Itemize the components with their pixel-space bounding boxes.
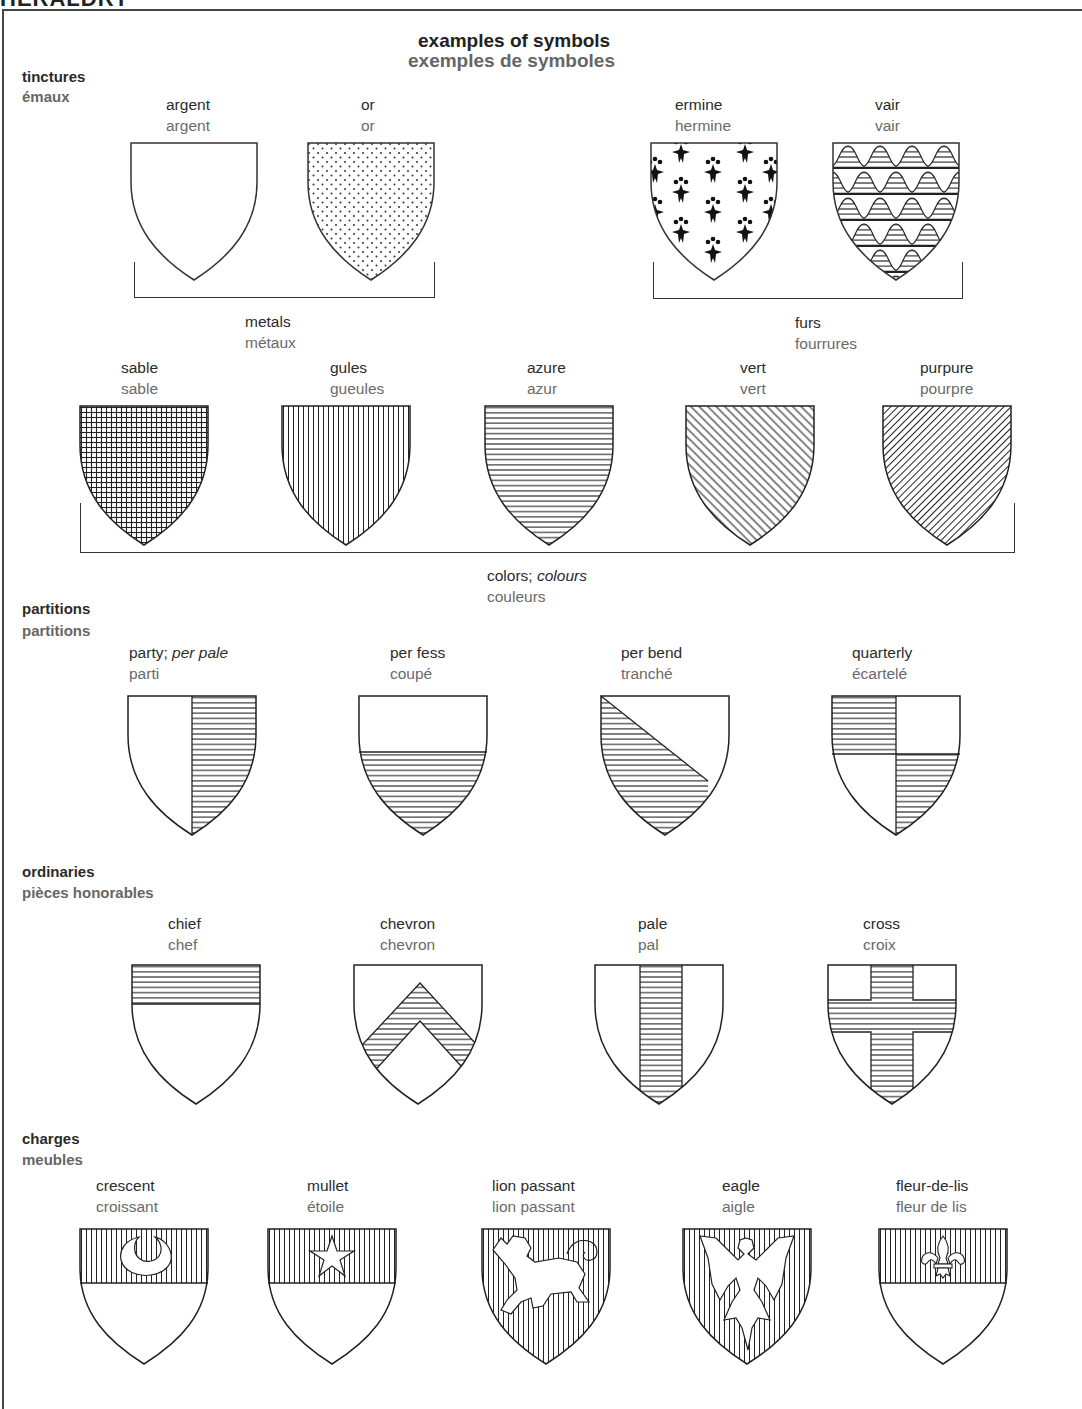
group-label-furs: furs fourrures [795, 312, 857, 354]
label-mullet: mullet étoile [307, 1175, 348, 1217]
label-pale: pale pal [638, 913, 667, 955]
bracket-metals [134, 262, 435, 298]
label-per-pale: party; per pale parti [129, 642, 228, 684]
shield-lion-passant [481, 1228, 613, 1366]
label-purpure: purpure pourpre [920, 357, 973, 399]
page-title-french: exemples de symboles [408, 50, 615, 71]
label-eagle: eagle aigle [722, 1175, 760, 1217]
shield-argent [130, 142, 260, 282]
shield-per-fess [358, 695, 490, 837]
shield-eagle [682, 1228, 814, 1366]
label-vair: vair vair [875, 94, 900, 136]
shield-crescent [79, 1228, 211, 1366]
section-title-ordinaries-fr: pièces honorables [22, 882, 154, 903]
bracket-furs [653, 262, 963, 299]
label-cross: cross croix [863, 913, 900, 955]
label-azure: azure azur [527, 357, 566, 399]
shield-fleur-de-lis [878, 1228, 1010, 1366]
shield-or-dotted [307, 142, 437, 282]
shield-chief [131, 964, 263, 1106]
section-title-ordinaries: ordinaries [22, 861, 95, 882]
label-fleur-de-lis: fleur-de-lis fleur de lis [896, 1175, 968, 1217]
label-argent: argent argent [166, 94, 210, 136]
section-title-tinctures-fr: émaux [22, 86, 70, 107]
shield-quarterly [831, 695, 963, 837]
label-sable: sable sable [121, 357, 158, 399]
shield-ermine [650, 142, 780, 282]
section-title-charges-fr: meubles [22, 1149, 83, 1170]
label-lion-passant: lion passant lion passant [492, 1175, 575, 1217]
shield-pale [594, 964, 726, 1106]
label-gules: gules gueules [330, 357, 384, 399]
group-label-metals: metals métaux [245, 311, 296, 353]
section-title-tinctures: tinctures [22, 66, 85, 87]
group-label-colors: colors; colours couleurs [487, 565, 587, 607]
label-vert: vert vert [740, 357, 766, 399]
label-ermine: ermine hermine [675, 94, 731, 136]
shield-cross [827, 964, 959, 1106]
label-per-fess: per fess coupé [390, 642, 445, 684]
shield-mullet [267, 1228, 399, 1366]
label-chevron: chevron chevron [380, 913, 435, 955]
label-chief: chief chef [168, 913, 201, 955]
section-title-charges: charges [22, 1128, 80, 1149]
section-title-partitions-fr: partitions [22, 620, 90, 641]
label-or: or or [361, 94, 375, 136]
shield-per-bend [600, 695, 732, 837]
shield-vair [832, 142, 962, 282]
page-title: examples of symbols [418, 30, 610, 51]
shield-chevron [353, 964, 485, 1106]
label-per-bend: per bend tranché [621, 642, 682, 684]
section-title-partitions: partitions [22, 598, 90, 619]
label-crescent: crescent croissant [96, 1175, 158, 1217]
label-quarterly: quarterly écartelé [852, 642, 912, 684]
bracket-colors [80, 503, 1015, 553]
shield-per-pale [127, 695, 259, 837]
